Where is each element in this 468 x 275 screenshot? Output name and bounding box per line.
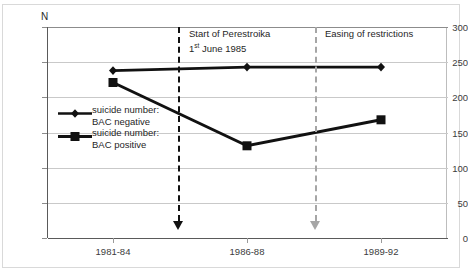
legend-text-bac-positive-line1: suicide number:	[92, 127, 159, 139]
legend-text-bac-positive: suicide number: BAC positive	[92, 127, 159, 150]
legend-text-bac-negative-line1: suicide number:	[92, 104, 159, 116]
legend-swatch-bac-negative	[58, 109, 92, 118]
chart-figure: N 300 250 200 150 100 50 0 1981-84 1986-…	[0, 0, 468, 275]
event-line-perestroika	[178, 27, 180, 221]
legend-text-bac-negative: suicide number: BAC negative	[92, 104, 159, 127]
marker-bac-negative-1981-84	[109, 66, 117, 75]
legend-text-bac-negative-line2: BAC negative	[92, 116, 159, 128]
marker-bac-positive-1981-84	[109, 78, 118, 87]
event-line-easing-restrictions	[315, 27, 317, 221]
event-label-perestroika-line1: Start of Perestroika	[189, 28, 270, 40]
event-label-perestroika-line2: 1st June 1985	[189, 40, 270, 55]
legend-swatch-bac-positive	[58, 132, 92, 141]
legend-text-bac-positive-line2: BAC positive	[92, 139, 159, 151]
event-arrow-perestroika	[173, 221, 183, 230]
event-label-easing-restrictions: Easing of restrictions	[325, 28, 413, 40]
marker-bac-positive-1986-88	[243, 141, 252, 150]
event-arrow-easing-restrictions	[310, 221, 320, 230]
event-label-perestroika-line2-suffix: June 1985	[199, 43, 246, 54]
marker-bac-negative-1989-92	[377, 63, 385, 72]
marker-bac-negative-1986-88	[243, 63, 251, 72]
event-label-easing-restrictions-line1: Easing of restrictions	[325, 28, 413, 40]
event-label-perestroika: Start of Perestroika 1st June 1985	[189, 28, 270, 55]
marker-bac-positive-1989-92	[377, 115, 386, 124]
